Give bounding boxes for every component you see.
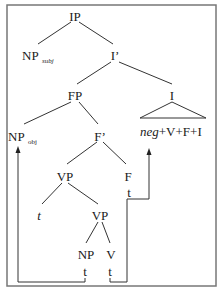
arrow-up-icon <box>147 148 152 155</box>
node-f-trace: t <box>127 185 131 200</box>
node-np-subj: NP <box>22 48 39 63</box>
node-np: NP <box>78 247 95 262</box>
i-triangle <box>140 102 206 118</box>
arrow-up-icon <box>16 146 21 153</box>
node-np-trace: t <box>83 264 87 279</box>
node-i-bar: I’ <box>111 48 120 63</box>
node-i: I <box>170 88 174 103</box>
node-vp-spec-trace: t <box>37 208 41 223</box>
node-f-bar: F’ <box>94 129 106 144</box>
node-np-obj: NP <box>8 129 25 144</box>
node-fp: FP <box>68 88 82 103</box>
node-np-subj-subscript: subj <box>42 57 54 65</box>
node-f: F <box>124 169 131 184</box>
np-movement-path <box>18 152 85 282</box>
node-ip: IP <box>69 9 81 24</box>
node-v: V <box>106 247 116 262</box>
node-vp-lower: VP <box>92 208 109 223</box>
node-vp-upper: VP <box>57 169 74 184</box>
node-i-content: neg+V+F+I <box>140 124 202 139</box>
node-v-trace: t <box>108 264 112 279</box>
syntax-tree-diagram: IP NP subj I’ FP I NP obj F’ neg+V+F+I V… <box>0 0 222 291</box>
node-np-obj-subscript: obj <box>28 138 37 146</box>
